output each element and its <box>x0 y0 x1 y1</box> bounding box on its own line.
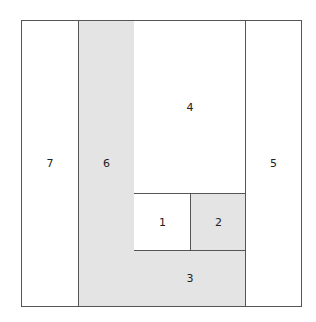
partition-frame: 7 6 4 1 2 3 5 <box>21 20 302 307</box>
region-1: 1 <box>134 193 191 251</box>
region-label-1: 1 <box>159 216 166 229</box>
region-4: 4 <box>134 21 246 194</box>
region-label-3: 3 <box>187 272 194 285</box>
region-2: 2 <box>190 193 246 251</box>
region-label-7: 7 <box>47 157 54 170</box>
region-7: 7 <box>22 21 78 306</box>
region-6: 6 <box>78 21 135 306</box>
region-label-6: 6 <box>103 157 110 170</box>
region-label-5: 5 <box>270 157 277 170</box>
region-label-4: 4 <box>187 101 194 114</box>
region-label-2: 2 <box>215 216 222 229</box>
region-3: 3 <box>134 250 246 306</box>
region-5: 5 <box>245 21 301 306</box>
